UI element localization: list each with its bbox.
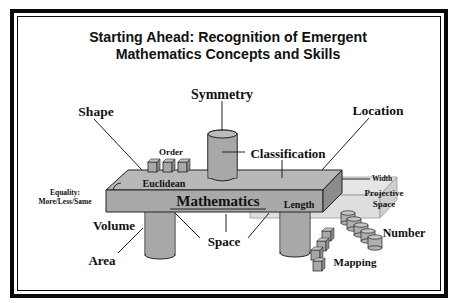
label-location: Location	[352, 103, 403, 118]
mapping-cubes	[311, 228, 334, 271]
label-projective-line2: Space	[373, 199, 396, 209]
label-equality-line1: Equality:	[50, 188, 80, 197]
label-mapping: Mapping	[334, 256, 377, 268]
label-shape: Shape	[78, 104, 113, 119]
label-equality-line2: More/Less/Same	[38, 197, 92, 206]
label-volume: Volume	[93, 218, 135, 233]
order-cubes	[148, 159, 190, 172]
label-area: Area	[88, 253, 116, 268]
label-classification: Classification	[250, 146, 326, 161]
label-length: Length	[284, 199, 315, 210]
right-leg-cylinder	[280, 205, 310, 257]
label-euclidean: Euclidean	[143, 178, 186, 189]
left-leg-cylinder	[145, 205, 175, 259]
label-space: Space	[208, 234, 241, 249]
label-projective-line1: Projective	[365, 188, 404, 198]
label-number: Number	[383, 226, 426, 240]
label-width: Width	[372, 174, 393, 183]
label-mathematics: Mathematics	[176, 193, 259, 209]
label-order: Order	[159, 147, 183, 157]
math-concepts-diagram: Symmetry Shape Location Order Classifica…	[0, 0, 456, 303]
label-symmetry: Symmetry	[191, 87, 253, 102]
